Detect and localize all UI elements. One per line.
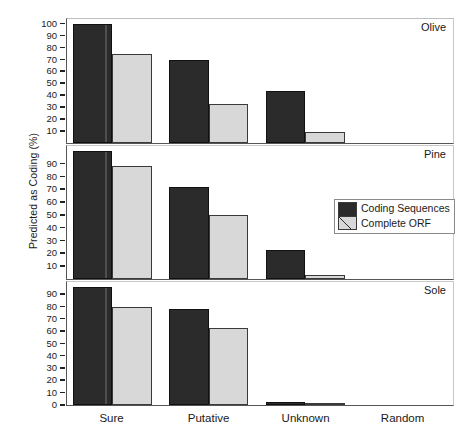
tick-label: 50: [46, 77, 57, 88]
tick-mark: [60, 47, 65, 49]
bar: [305, 403, 345, 405]
tick-label: 60: [46, 325, 57, 336]
bar: [169, 309, 209, 405]
tick-mark: [60, 343, 65, 345]
figure-panel-bar-chart: Predicted as Coding (%) 1020304050607080…: [0, 0, 474, 441]
tick-label: 40: [46, 222, 57, 233]
tick-label: 10: [46, 387, 57, 398]
tick-mark: [60, 82, 65, 84]
legend-swatch-coding-sequences: [339, 203, 356, 216]
tick-label: 70: [46, 183, 57, 194]
legend-label-complete-orf: Complete ORF: [361, 217, 450, 230]
tick-mark: [60, 35, 65, 37]
bar-group: [73, 19, 152, 143]
plot-area: [67, 282, 453, 405]
tick-label: 80: [46, 301, 57, 312]
tick-mark: [60, 252, 65, 254]
bar-group: [266, 282, 345, 405]
tick-label: 90: [46, 158, 57, 169]
tick-mark: [60, 70, 65, 72]
bar: [73, 24, 113, 143]
tick-label: 70: [46, 313, 57, 324]
y-axis-title: Predicted as Coding (%): [27, 96, 39, 286]
bar-group: [73, 146, 152, 279]
x-axis-label-random: Random: [381, 412, 424, 424]
panel-title: Sole: [424, 284, 446, 297]
tick-mark: [60, 379, 65, 381]
bar: [305, 275, 345, 279]
tick-mark: [60, 118, 65, 120]
tick-mark: [60, 94, 65, 96]
bar: [73, 287, 113, 405]
tick-mark: [60, 59, 65, 61]
bar: [266, 402, 306, 405]
tick-mark: [60, 214, 65, 216]
bar: [73, 151, 113, 279]
bar: [169, 187, 209, 279]
tick-mark: [60, 106, 65, 108]
bar-group: [169, 282, 248, 405]
tick-mark: [60, 318, 65, 320]
tick-mark: [60, 330, 65, 332]
tick-label: 30: [46, 362, 57, 373]
tick-label: 80: [46, 42, 57, 53]
legend-swatch-complete-orf: [339, 216, 356, 229]
tick-mark: [60, 163, 65, 165]
tick-label: 20: [46, 247, 57, 258]
bar: [209, 104, 249, 143]
bar: [209, 215, 249, 279]
bar: [209, 328, 249, 405]
bar-group: [73, 282, 152, 405]
bar: [112, 54, 152, 143]
tick-mark: [60, 201, 65, 203]
x-axis-label-unknown: Unknown: [282, 412, 330, 424]
tick-label: 80: [46, 171, 57, 182]
tick-label: 40: [46, 89, 57, 100]
tick-mark: [60, 130, 65, 132]
tick-label: 90: [46, 30, 57, 41]
bar: [305, 132, 345, 143]
panel-olive: 102030405060708090100 Olive: [66, 18, 454, 144]
tick-mark: [60, 23, 65, 25]
tick-label: 20: [46, 113, 57, 124]
tick-label: 0: [52, 399, 57, 410]
bar-group: [169, 19, 248, 143]
tick-label: 40: [46, 350, 57, 361]
bar-group: [362, 282, 441, 405]
bar: [169, 60, 209, 143]
bar: [266, 91, 306, 143]
tick-label: 10: [46, 125, 57, 136]
x-axis-label-sure: Sure: [99, 412, 123, 424]
tick-mark: [60, 306, 65, 308]
tick-label: 20: [46, 374, 57, 385]
bar-group: [266, 19, 345, 143]
tick-label: 50: [46, 338, 57, 349]
tick-mark: [60, 176, 65, 178]
legend-label-coding-sequences: Coding Sequences: [361, 202, 450, 215]
tick-label: 30: [46, 235, 57, 246]
tick-label: 60: [46, 65, 57, 76]
tick-label: 90: [46, 288, 57, 299]
tick-mark: [60, 227, 65, 229]
tick-label: 10: [46, 260, 57, 271]
tick-label: 60: [46, 196, 57, 207]
x-axis-labels: SurePutativeUnknownRandom: [66, 408, 454, 434]
legend-swatches: [338, 202, 357, 230]
legend: Coding Sequences Complete ORF: [334, 199, 455, 234]
legend-labels: Coding Sequences Complete ORF: [361, 202, 450, 230]
panel-sole: 0102030405060708090 Sole: [66, 281, 454, 406]
tick-mark: [60, 293, 65, 295]
bar: [266, 250, 306, 279]
panel-title: Olive: [421, 21, 446, 34]
tick-label: 100: [41, 18, 57, 29]
panel-title: Pine: [424, 148, 446, 161]
tick-mark: [60, 188, 65, 190]
bar: [112, 166, 152, 279]
tick-label: 70: [46, 54, 57, 65]
tick-mark: [60, 367, 65, 369]
bar-group: [169, 146, 248, 279]
tick-label: 30: [46, 101, 57, 112]
tick-mark: [60, 392, 65, 394]
tick-mark: [60, 240, 65, 242]
tick-mark: [60, 404, 65, 406]
